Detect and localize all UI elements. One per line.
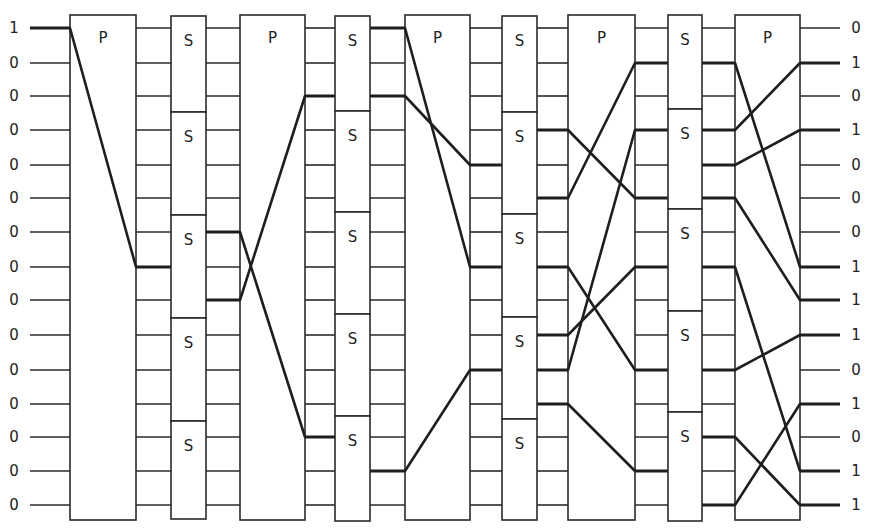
input-bit-label: 0: [9, 428, 19, 446]
substitution-box-label: S: [184, 334, 194, 352]
spn-diagram: 100000000000000010100011101011PSSSSSPSSS…: [0, 0, 872, 531]
substitution-box-label: S: [515, 333, 525, 351]
output-bit-label: 1: [851, 291, 861, 309]
output-bit-label: 0: [851, 19, 861, 37]
permutation-box: [70, 15, 136, 520]
input-bit-label: 0: [9, 496, 19, 514]
permutation-box: [405, 15, 470, 520]
input-bit-label: 0: [9, 258, 19, 276]
substitution-box: [335, 16, 370, 111]
output-bit-label: 1: [851, 54, 861, 72]
substitution-box-label: S: [348, 432, 358, 450]
permutation-box-label: P: [433, 29, 442, 47]
permutation-box-label: P: [268, 29, 277, 47]
substitution-box-label: S: [184, 437, 194, 455]
output-bit-label: 1: [851, 395, 861, 413]
substitution-box: [171, 16, 206, 112]
output-bit-label: 0: [851, 189, 861, 207]
output-bit-label: 0: [851, 361, 861, 379]
substitution-box-label: S: [680, 327, 690, 345]
input-bit-label: 0: [9, 223, 19, 241]
substitution-box-label: S: [515, 32, 525, 50]
substitution-box-label: S: [680, 125, 690, 143]
output-bit-label: 1: [851, 258, 861, 276]
input-bit-label: 0: [9, 395, 19, 413]
substitution-box-label: S: [680, 428, 690, 446]
substitution-box: [171, 421, 206, 519]
output-bit-label: 1: [851, 496, 861, 514]
substitution-box-label: S: [348, 330, 358, 348]
input-bit-label: 0: [9, 189, 19, 207]
input-bit-label: 0: [9, 361, 19, 379]
input-bit-label: 1: [9, 19, 19, 37]
substitution-box-label: S: [184, 231, 194, 249]
substitution-box-label: S: [680, 31, 690, 49]
substitution-box-label: S: [184, 128, 194, 146]
substitution-box-label: S: [515, 128, 525, 146]
permutation-box-label: P: [763, 29, 772, 47]
input-bit-label: 0: [9, 54, 19, 72]
substitution-box-label: S: [515, 230, 525, 248]
output-bit-label: 0: [851, 156, 861, 174]
substitution-box-label: S: [348, 228, 358, 246]
output-bit-label: 0: [851, 87, 861, 105]
permutation-box-label: P: [98, 29, 107, 47]
substitution-box: [668, 15, 702, 109]
permutation-box: [568, 15, 635, 520]
output-bit-label: 0: [851, 223, 861, 241]
substitution-box-label: S: [348, 32, 358, 50]
input-bit-label: 0: [9, 291, 19, 309]
substitution-box: [502, 16, 537, 112]
input-bit-label: 0: [9, 87, 19, 105]
input-bit-label: 0: [9, 326, 19, 344]
output-bit-label: 1: [851, 326, 861, 344]
permutation-box-label: P: [597, 29, 606, 47]
output-bit-label: 0: [851, 428, 861, 446]
output-bit-label: 1: [851, 121, 861, 139]
input-bit-label: 0: [9, 462, 19, 480]
input-bit-label: 0: [9, 156, 19, 174]
substitution-box-label: S: [515, 435, 525, 453]
boxes-layer: [70, 15, 800, 521]
input-bit-label: 0: [9, 121, 19, 139]
substitution-box-label: S: [184, 32, 194, 50]
substitution-box-label: S: [348, 127, 358, 145]
output-bit-label: 1: [851, 462, 861, 480]
substitution-box: [668, 109, 702, 209]
substitution-box-label: S: [680, 225, 690, 243]
